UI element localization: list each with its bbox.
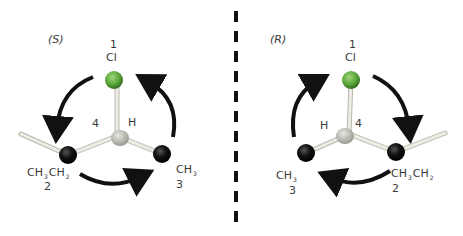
r-priority-3-rank: 3 [289,185,296,196]
s-config-label: (S) [48,34,64,45]
ethyl-carbon-atom [59,146,77,164]
bonds [306,80,445,153]
s-priority-3-rank: 3 [176,179,183,190]
bonds [21,75,162,155]
r-priority-1-rank: 1 [349,39,356,50]
s-priority-4-rank: 4 [92,118,99,129]
s-priority-2-group: CH3CH2 [27,167,71,180]
s-priority-3-group: CH3 [176,164,198,177]
r-priority-3-group: CH3 [276,170,298,183]
arrow-1-to-2 [373,76,409,128]
hydrogen-atom [111,130,129,146]
r-enantiomer [293,71,445,183]
r-priority-2-group: CH3CH2 [391,168,435,181]
r-priority-2-rank: 2 [392,183,399,194]
ethyl-carbon-atom [387,143,405,161]
arrow-3-to-1 [293,82,316,137]
arrow-2-to-3 [332,171,390,183]
r-priority-4-rank: 4 [355,118,362,129]
arrow-2-to-3 [80,174,140,184]
hydrogen-atom [336,128,354,144]
arrow-1-to-2 [57,77,93,128]
r-config-label: (R) [270,34,286,45]
s-priority-4-group: H [128,117,136,128]
chlorine-atom [105,71,123,89]
methyl-carbon-atom [153,145,171,163]
arrow-3-to-1 [149,82,174,137]
methyl-carbon-atom [297,144,315,162]
s-priority-1-rank: 1 [110,39,117,50]
r-priority-1-group: Cl [345,52,356,63]
s-priority-1-group: Cl [106,52,117,63]
r-priority-4-group: H [320,120,328,131]
stereochemistry-diagram [0,0,463,236]
s-priority-2-rank: 2 [44,181,51,192]
chlorine-atom [342,71,360,89]
